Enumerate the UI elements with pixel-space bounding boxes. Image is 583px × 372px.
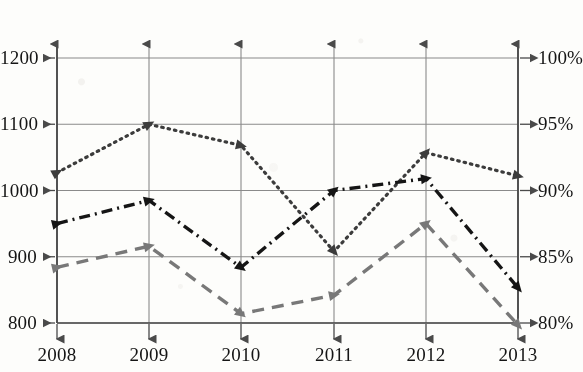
x-tick-2011: 2011 (300, 345, 368, 364)
left-tick-1000: 1000 (0, 181, 37, 200)
x-tick-2010: 2010 (207, 345, 275, 364)
left-tick-800: 800 (0, 313, 37, 332)
data-series-layer (50, 117, 525, 333)
vertical-gridline-axes (57, 44, 518, 339)
x-tick-2012: 2012 (392, 345, 460, 364)
left-tick-900: 900 (0, 247, 37, 266)
gridlines (44, 58, 531, 323)
left-tick-1200: 1200 (0, 48, 37, 67)
x-tick-2008: 2008 (23, 345, 91, 364)
right-tick-95%: 95% (538, 114, 573, 133)
left-tick-1100: 1100 (0, 114, 37, 133)
right-tick-90%: 90% (538, 181, 573, 200)
series-line-dotted-series (57, 124, 518, 251)
right-tick-100%: 100% (538, 48, 583, 67)
x-tick-2013: 2013 (484, 345, 552, 364)
right-tick-80%: 80% (538, 313, 573, 332)
series-line-dash-dot-series (57, 179, 518, 288)
x-tick-2009: 2009 (115, 345, 183, 364)
series-line-dashed-series (57, 224, 518, 325)
right-tick-85%: 85% (538, 247, 573, 266)
